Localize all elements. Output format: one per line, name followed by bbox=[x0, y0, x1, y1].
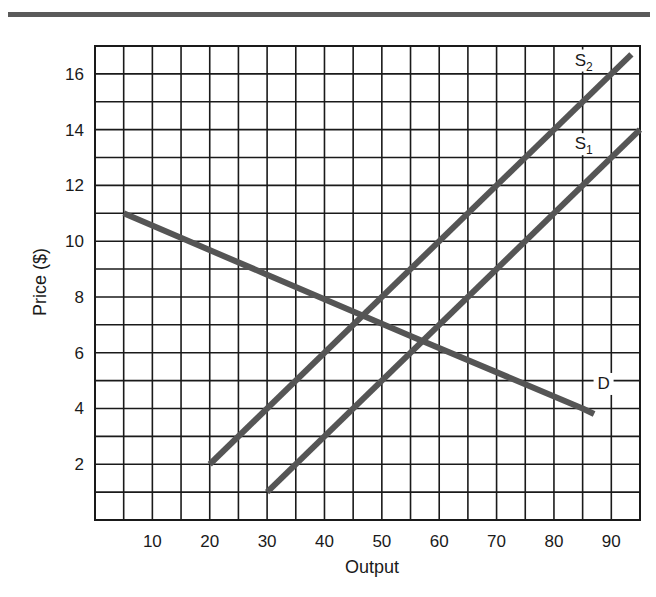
x-tick-label: 80 bbox=[544, 532, 563, 551]
y-tick-label: 8 bbox=[75, 288, 84, 307]
y-tick-label: 6 bbox=[75, 344, 84, 363]
chart-grid bbox=[95, 46, 640, 520]
y-tick-label: 4 bbox=[75, 399, 84, 418]
y-tick-label: 16 bbox=[65, 65, 84, 84]
x-tick-label: 20 bbox=[200, 532, 219, 551]
x-axis-ticks: 102030405060708090 bbox=[143, 532, 621, 551]
y-axis-label: Price ($) bbox=[30, 248, 50, 316]
y-tick-label: 10 bbox=[65, 232, 84, 251]
supply-demand-chart: 102030405060708090 246810121416 DS1S2 Ou… bbox=[0, 0, 656, 597]
x-tick-label: 30 bbox=[258, 532, 277, 551]
x-tick-label: 60 bbox=[430, 532, 449, 551]
curve-s1 bbox=[267, 130, 640, 492]
curve-label-d: D bbox=[598, 374, 610, 393]
plot-border bbox=[95, 46, 640, 520]
x-axis-label: Output bbox=[345, 557, 399, 577]
x-tick-label: 90 bbox=[602, 532, 621, 551]
y-tick-label: 2 bbox=[75, 455, 84, 474]
x-tick-label: 70 bbox=[487, 532, 506, 551]
x-tick-label: 10 bbox=[143, 532, 162, 551]
y-tick-label: 12 bbox=[65, 176, 84, 195]
y-axis-ticks: 246810121416 bbox=[65, 65, 84, 474]
x-tick-label: 40 bbox=[315, 532, 334, 551]
y-tick-label: 14 bbox=[65, 121, 84, 140]
x-tick-label: 50 bbox=[372, 532, 391, 551]
